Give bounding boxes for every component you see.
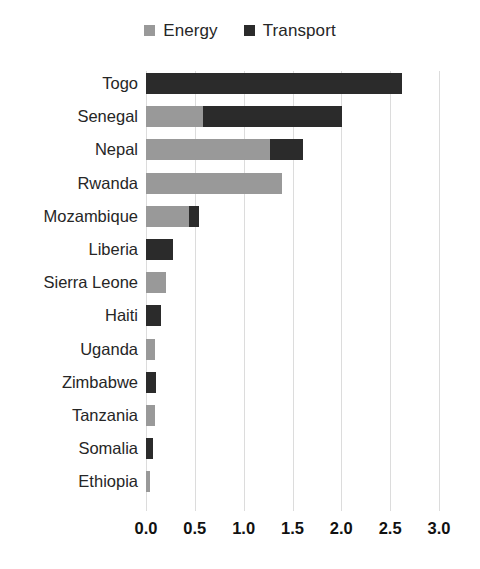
bar-segment-transport xyxy=(203,106,343,127)
bar-row xyxy=(146,405,439,426)
plot-area xyxy=(146,71,439,511)
bar-segment-energy xyxy=(146,206,189,227)
y-axis-label-haiti: Haiti xyxy=(0,305,138,326)
bar-row xyxy=(146,206,439,227)
stacked-bar-chart: Energy Transport TogoSenegalNepalRwandaM… xyxy=(0,0,480,569)
x-tick-label-2.5: 2.5 xyxy=(379,519,402,538)
bar-segment-transport xyxy=(146,305,161,326)
bar-row xyxy=(146,272,439,293)
bar-row xyxy=(146,173,439,194)
bar-segment-transport xyxy=(146,239,173,260)
bar-segment-transport xyxy=(146,372,156,393)
y-axis-label-sierra-leone: Sierra Leone xyxy=(0,272,138,293)
legend-label-transport: Transport xyxy=(263,22,336,39)
bar-segment-transport xyxy=(189,206,199,227)
bar-segment-energy xyxy=(146,272,166,293)
bar-row xyxy=(146,339,439,360)
bar-segment-transport xyxy=(146,73,402,94)
y-axis-label-senegal: Senegal xyxy=(0,106,138,127)
y-axis-label-ethiopia: Ethiopia xyxy=(0,471,138,492)
legend-entry-transport: Transport xyxy=(244,22,336,39)
chart-legend: Energy Transport xyxy=(0,22,480,39)
legend-entry-energy: Energy xyxy=(144,22,217,39)
y-axis-label-nepal: Nepal xyxy=(0,139,138,160)
bar-segment-transport xyxy=(270,139,303,160)
bar-segment-energy xyxy=(146,106,203,127)
x-axis-tick-labels: 0.00.51.01.52.02.53.0 xyxy=(146,519,439,543)
y-axis-category-labels: TogoSenegalNepalRwandaMozambiqueLiberiaS… xyxy=(0,71,138,511)
y-axis-label-uganda: Uganda xyxy=(0,339,138,360)
bar-segment-energy xyxy=(146,173,282,194)
y-axis-label-mozambique: Mozambique xyxy=(0,206,138,227)
bar-row xyxy=(146,73,439,94)
x-tick-label-3.0: 3.0 xyxy=(428,519,451,538)
x-tick-label-2.0: 2.0 xyxy=(330,519,353,538)
y-axis-label-rwanda: Rwanda xyxy=(0,173,138,194)
y-axis-label-tanzania: Tanzania xyxy=(0,405,138,426)
y-axis-label-zimbabwe: Zimbabwe xyxy=(0,372,138,393)
bar-rows xyxy=(146,71,439,511)
x-tick-label-1.5: 1.5 xyxy=(281,519,304,538)
y-axis-label-liberia: Liberia xyxy=(0,239,138,260)
bar-segment-energy xyxy=(146,139,270,160)
y-axis-label-somalia: Somalia xyxy=(0,438,138,459)
bar-row xyxy=(146,106,439,127)
bar-segment-energy xyxy=(146,405,155,426)
legend-swatch-energy-icon xyxy=(144,25,155,36)
x-tick-label-0.0: 0.0 xyxy=(135,519,158,538)
x-tick-label-0.5: 0.5 xyxy=(183,519,206,538)
bar-segment-energy xyxy=(146,339,155,360)
legend-label-energy: Energy xyxy=(163,22,217,39)
bar-row xyxy=(146,305,439,326)
bar-row xyxy=(146,139,439,160)
x-tick-label-1.0: 1.0 xyxy=(232,519,255,538)
legend-swatch-transport-icon xyxy=(244,25,255,36)
y-axis-label-togo: Togo xyxy=(0,73,138,94)
bar-row xyxy=(146,239,439,260)
bar-row xyxy=(146,438,439,459)
bar-segment-energy xyxy=(146,471,150,492)
bar-segment-transport xyxy=(146,438,153,459)
gridline-3.0 xyxy=(439,71,440,511)
bar-row xyxy=(146,471,439,492)
bar-row xyxy=(146,372,439,393)
